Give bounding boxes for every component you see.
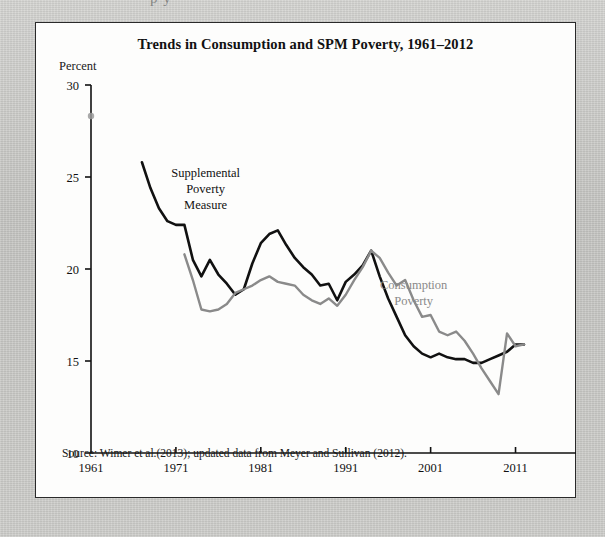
y-tick-label: 30 bbox=[67, 79, 80, 93]
x-tick-label: 1981 bbox=[248, 461, 273, 475]
chart-annotations: SupplementalPovertyMeasureConsumptionPov… bbox=[171, 166, 448, 308]
y-tick-label: 20 bbox=[67, 263, 80, 277]
series-label-supplemental-poverty-measure: Poverty bbox=[186, 182, 226, 196]
partial-page-text: p y bbox=[150, 0, 172, 7]
chart-axes: 1015202530 196119711981199120012011 bbox=[67, 79, 577, 476]
scan-artifact-dot bbox=[88, 113, 94, 119]
figure-panel: Trends in Consumption and SPM Poverty, 1… bbox=[35, 22, 576, 498]
line-chart-plot: 1015202530 196119711981199120012011 Supp… bbox=[36, 23, 577, 499]
series-label-supplemental-poverty-measure: Supplemental bbox=[171, 166, 240, 180]
series-label-supplemental-poverty-measure: Measure bbox=[184, 198, 227, 212]
x-tick-label: 1991 bbox=[333, 461, 358, 475]
y-tick-label: 15 bbox=[67, 355, 80, 369]
x-tick-label: 2011 bbox=[503, 461, 528, 475]
y-tick-label: 25 bbox=[67, 171, 80, 185]
series-label-consumption-poverty: Poverty bbox=[394, 294, 434, 308]
series-label-consumption-poverty: Consumption bbox=[380, 278, 448, 292]
source-note: Source: Wimer et al.(2013); updated data… bbox=[62, 447, 407, 459]
y-axis-ticks: 1015202530 bbox=[67, 79, 92, 461]
x-tick-label: 1971 bbox=[163, 461, 188, 475]
x-tick-label: 1961 bbox=[79, 461, 104, 475]
series-line-consumption-poverty bbox=[184, 251, 524, 395]
x-tick-label: 2001 bbox=[418, 461, 443, 475]
